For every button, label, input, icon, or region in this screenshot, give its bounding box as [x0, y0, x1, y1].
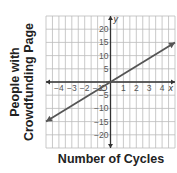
x-tick-label: 2 — [134, 83, 139, 93]
y-tick-label: 15 — [99, 37, 109, 47]
y-tick-label: −10 — [94, 103, 109, 113]
y-tick-label: 10 — [99, 51, 109, 61]
x-tick-label: 1 — [121, 83, 126, 93]
x-tick-label: −3 — [67, 83, 77, 93]
x-tick-label: −2 — [80, 83, 90, 93]
arrow-icon — [108, 16, 113, 20]
x-tick-label: 4 — [160, 83, 165, 93]
y-axis-name: y — [113, 14, 119, 24]
y-tick-label: 20 — [99, 24, 109, 34]
x-tick-label: 3 — [147, 83, 152, 93]
arrow-icon — [108, 144, 113, 148]
y-tick-label: −20 — [94, 130, 109, 140]
x-axis-name: x — [168, 83, 174, 93]
x-axis-label: Number of Cycles — [46, 152, 176, 166]
arrow-icon — [46, 80, 50, 85]
x-tick-label: −4 — [54, 83, 64, 93]
y-axis-label: People withCrowdfunding Page — [2, 16, 42, 148]
y-tick-label: 5 — [104, 64, 109, 74]
y-tick-label: −15 — [94, 117, 109, 127]
